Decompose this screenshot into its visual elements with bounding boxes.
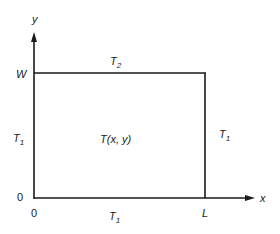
y-axis-arrow-icon bbox=[31, 32, 37, 42]
top-boundary-label: T2 bbox=[110, 55, 122, 70]
origin-x-label: 0 bbox=[31, 207, 37, 219]
y-axis-label: y bbox=[31, 13, 39, 25]
bottom-boundary-label: T1 bbox=[109, 210, 120, 225]
origin-y-label: 0 bbox=[17, 191, 23, 203]
length-label: L bbox=[202, 207, 208, 219]
x-axis-label: x bbox=[259, 192, 266, 204]
left-boundary-label: T1 bbox=[13, 132, 24, 147]
width-label: W bbox=[16, 68, 28, 80]
interior-temperature-label: T(x, y) bbox=[100, 133, 131, 145]
heat-plate-diagram: y x W 0 0 L T2 T1 T1 T1 T(x, y) bbox=[0, 0, 280, 234]
x-axis-arrow-icon bbox=[245, 195, 255, 201]
right-boundary-label: T1 bbox=[219, 128, 230, 143]
